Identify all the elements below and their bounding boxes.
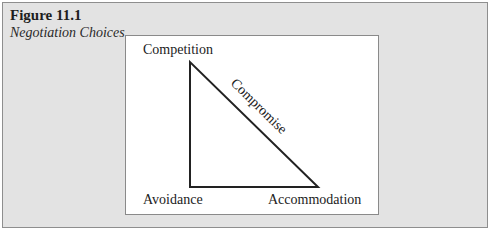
- vertex-label-accommodation: Accommodation: [268, 192, 361, 208]
- figure-title: Negotiation Choices: [10, 25, 125, 41]
- diagram-panel: Compromise Competition Avoidance Accommo…: [125, 35, 379, 215]
- negotiation-triangle: [190, 62, 318, 187]
- vertex-label-avoidance: Avoidance: [143, 192, 203, 208]
- figure-number: Figure 11.1: [10, 7, 81, 24]
- hypotenuse-label: Compromise: [228, 75, 290, 136]
- triangle-diagram: Compromise: [126, 36, 380, 216]
- vertex-label-competition: Competition: [143, 42, 213, 58]
